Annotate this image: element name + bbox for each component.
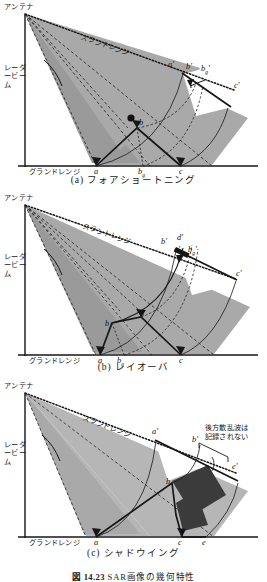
slant-point-b-prime-label-c: b' [192,435,198,444]
panel-a-drawing [0,0,267,191]
figure-title: SAR画像の幾何特性 [108,570,196,582]
panel-shadowing: アンテナ レーダービーム スラントレンジ グランドレンジ a c e a' b'… [0,379,267,564]
caption-panel-c: (c) シャドウイング [0,545,267,559]
slant-point-a-prime-label: a' [168,60,174,69]
panel-b-drawing [0,191,267,379]
terrain-peak-b-label-c: b [166,477,170,486]
radar-beam-label-c: レーダービーム [4,441,30,466]
panel-c-drawing [0,379,267,564]
slant-point-d-prime-label-b: d' [177,233,183,242]
shadow-annotation: 後方散乱波は 記録されない [205,424,248,442]
caption-panel-b: (b) レイオーバ [0,359,267,373]
figure-sheet: アンテナ レーダービーム スラントレンジ グランドレンジ a bg c a' b… [0,0,267,582]
slant-point-c-prime-label-b: c' [236,269,242,278]
antenna-label-c: アンテナ [4,382,33,390]
terrain-peak-b-label: b [139,118,143,127]
slant-point-b-prime-label-b: b' [161,237,167,246]
terrain-point-d-label-b: d [140,309,144,318]
antenna-label-b: アンテナ [4,194,33,202]
figure-number: 図 14.23 [72,570,105,582]
slant-point-a-prime-label-b: a' [174,245,180,254]
slant-point-bg-prime-label-b: bg' [188,245,197,256]
slant-point-e-prime-label-c: e' [232,462,238,471]
terrain-point-b-label-b: b [105,319,109,328]
shadow-annotation-line1: 後方散乱波は [205,424,248,433]
caption-panel-a: (a) フォアショートニング [0,172,267,186]
shadow-annotation-line2: 記録されない [205,433,248,442]
panel-layover: アンテナ レーダービーム スラントレンジ グランドレンジ a bg c b' d… [0,191,267,379]
radar-beam-label-b: レーダービーム [4,253,30,278]
slant-point-c-prime-label: c' [234,81,240,90]
panel-foreshortening: アンテナ レーダービーム スラントレンジ グランドレンジ a bg c a' b… [0,0,267,191]
figure-caption: 図 14.23 SAR画像の幾何特性 [0,570,267,582]
antenna-label-a: アンテナ [4,3,33,11]
slant-point-bg-prime-label: bg' [201,64,210,75]
slant-point-a-prime-label-c: a' [152,427,158,436]
slant-point-b-prime-label: b' [186,62,192,71]
radar-beam-label-a: レーダービーム [4,64,30,89]
